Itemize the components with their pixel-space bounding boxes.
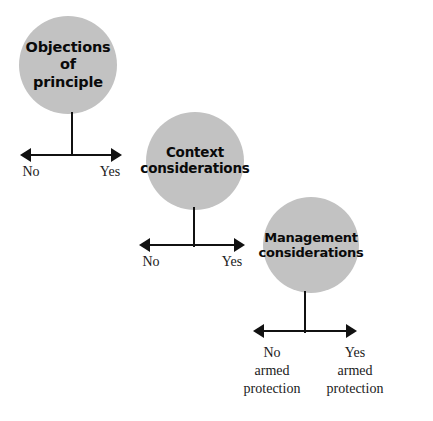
axis-label-right: Yes [222,253,242,271]
bubble-management-considerations[interactable]: Management considerations [263,197,359,293]
bubble-objections-of-principle[interactable]: Objections of principle [19,16,117,114]
arrow-right-icon [346,324,357,338]
arrow-right-icon [111,148,122,162]
axis-no-yes [20,148,122,162]
axis-no-yes [139,238,245,252]
bubble-label: Objections of principle [24,39,113,90]
bubble-label: Management considerations [256,230,365,261]
axis-label-left: No armed protection [244,344,301,398]
axis-label-left: No [22,163,39,181]
axis-label-right: Yes [100,163,120,181]
diagram-canvas: Objections of principle No Yes Context c… [0,0,433,421]
bubble-context-considerations[interactable]: Context considerations [146,112,244,210]
axis-label-left: No [142,253,159,271]
bubble-label: Context considerations [138,145,251,177]
axis-armed-protection [253,324,357,338]
axis-label-right: Yes armed protection [327,344,384,398]
axis-line [26,154,116,156]
arrow-right-icon [234,238,245,252]
axis-line [145,244,239,246]
axis-line [259,330,351,332]
